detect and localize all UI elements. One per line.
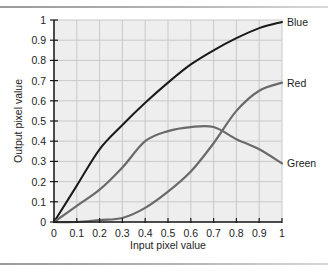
svg-text:0.9: 0.9 xyxy=(252,227,267,239)
svg-text:0.7: 0.7 xyxy=(206,227,221,239)
svg-text:0.8: 0.8 xyxy=(229,227,244,239)
svg-text:0.7: 0.7 xyxy=(31,75,46,87)
svg-text:0.6: 0.6 xyxy=(31,95,46,107)
svg-text:1: 1 xyxy=(40,14,46,26)
y-axis-title: Output pixel value xyxy=(12,79,24,163)
svg-text:0.5: 0.5 xyxy=(161,227,176,239)
svg-text:0.4: 0.4 xyxy=(138,227,153,239)
line-chart: 00.10.20.30.40.50.60.70.80.91 00.10.20.3… xyxy=(0,0,328,272)
series-label-red: Red xyxy=(287,77,306,89)
svg-text:0.6: 0.6 xyxy=(183,227,198,239)
svg-text:0: 0 xyxy=(51,227,57,239)
svg-text:0.3: 0.3 xyxy=(31,155,46,167)
svg-text:0.2: 0.2 xyxy=(31,176,46,188)
svg-text:0.3: 0.3 xyxy=(115,227,130,239)
svg-text:0.8: 0.8 xyxy=(31,54,46,66)
series-label-blue: Blue xyxy=(287,16,308,28)
series-label-green: Green xyxy=(287,157,316,169)
svg-text:0.1: 0.1 xyxy=(69,227,84,239)
x-axis-title: Input pixel value xyxy=(130,239,206,251)
svg-text:0.2: 0.2 xyxy=(92,227,107,239)
svg-text:0.5: 0.5 xyxy=(31,115,46,127)
series-labels: BlueRedGreen xyxy=(287,16,316,169)
svg-text:0.4: 0.4 xyxy=(31,135,46,147)
svg-text:0.1: 0.1 xyxy=(31,196,46,208)
svg-text:0.9: 0.9 xyxy=(31,34,46,46)
svg-text:1: 1 xyxy=(279,227,285,239)
svg-text:0: 0 xyxy=(40,216,46,228)
